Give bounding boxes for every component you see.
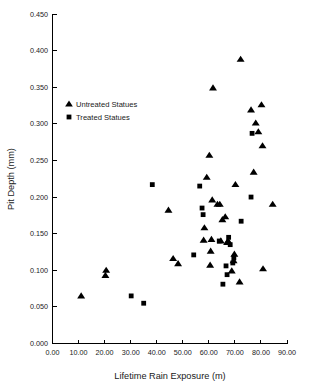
data-point-square <box>221 282 226 287</box>
data-point-square <box>230 261 235 266</box>
data-point-square <box>201 212 206 217</box>
data-point-triangle <box>221 213 229 219</box>
plot-canvas: 0.0000.0500.1000.1500.2000.2500.3000.350… <box>0 0 310 392</box>
data-point-triangle <box>237 56 245 62</box>
y-tick-label: 0.100 <box>30 266 48 275</box>
data-point-triangle <box>257 101 265 107</box>
x-tick-label: 80.00 <box>252 348 270 357</box>
x-tick-label: 60.00 <box>200 348 218 357</box>
y-tick-label: 0.300 <box>30 119 48 128</box>
data-point-square <box>228 242 233 247</box>
data-point-square <box>217 239 222 244</box>
series-treated-statues <box>129 131 255 306</box>
data-point-triangle <box>207 236 215 242</box>
data-point-triangle <box>205 152 213 158</box>
scatter-chart-figure: 0.0000.0500.1000.1500.2000.2500.3000.350… <box>0 0 310 392</box>
y-tick-label: 0.150 <box>30 229 48 238</box>
data-point-square <box>191 253 196 258</box>
y-tick-label: 0.200 <box>30 193 48 202</box>
data-point-square <box>250 131 255 136</box>
data-point-triangle <box>247 106 255 112</box>
data-point-triangle <box>252 119 260 125</box>
series-untreated-statues <box>77 56 276 299</box>
x-tick-label: 40.00 <box>148 348 166 357</box>
data-point-triangle <box>200 224 208 230</box>
data-point-triangle <box>208 196 216 202</box>
data-point-triangle <box>209 84 217 90</box>
data-point-square <box>129 294 134 299</box>
data-point-triangle <box>254 128 262 134</box>
x-tick-label: 10.00 <box>70 348 88 357</box>
data-point-square <box>249 195 254 200</box>
data-point-square <box>200 206 205 211</box>
x-tick-label: 20.00 <box>96 348 114 357</box>
data-point-square <box>226 235 231 240</box>
data-point-square <box>197 184 202 189</box>
data-point-square <box>239 219 244 224</box>
legend-label: Treated Statues <box>76 113 130 122</box>
y-tick-label: 0.250 <box>30 156 48 165</box>
legend-marker-triangle <box>65 100 73 106</box>
data-point-square <box>141 301 146 306</box>
data-point-triangle <box>250 169 258 175</box>
x-tick-label: 30.00 <box>122 348 140 357</box>
y-tick-label: 0.450 <box>30 10 48 19</box>
x-tick-label: 0.00 <box>46 348 60 357</box>
data-point-triangle <box>77 292 85 298</box>
data-point-triangle <box>231 181 239 187</box>
data-point-triangle <box>102 267 110 273</box>
legend-marker-square <box>67 115 72 120</box>
x-tick-label: 70.00 <box>226 348 244 357</box>
data-point-square <box>150 182 155 187</box>
y-tick-label: 0.400 <box>30 46 48 55</box>
data-point-triangle <box>206 262 214 268</box>
data-point-triangle <box>259 265 267 271</box>
data-point-square <box>224 263 229 268</box>
x-axis-ticks: 0.0010.0020.0030.0040.0050.0060.0070.008… <box>46 340 297 357</box>
data-point-square <box>231 255 236 260</box>
data-point-triangle <box>203 174 211 180</box>
y-tick-label: 0.350 <box>30 83 48 92</box>
data-point-triangle <box>207 248 215 254</box>
data-point-triangle <box>259 142 267 148</box>
data-point-triangle <box>269 201 277 207</box>
x-tick-label: 90.00 <box>278 348 296 357</box>
data-point-triangle <box>236 278 244 284</box>
data-point-triangle <box>169 255 177 261</box>
data-point-square <box>225 272 230 277</box>
x-tick-label: 50.00 <box>174 348 192 357</box>
y-tick-label: 0.050 <box>30 302 48 311</box>
x-axis-title: Lifetime Rain Exposure (m) <box>114 371 225 381</box>
chart-legend: Untreated StatuesTreated Statues <box>65 100 137 122</box>
data-point-triangle <box>200 237 208 243</box>
y-axis-title: Pit Depth (mm) <box>6 148 16 210</box>
legend-label: Untreated Statues <box>76 100 137 109</box>
data-point-triangle <box>164 207 172 213</box>
